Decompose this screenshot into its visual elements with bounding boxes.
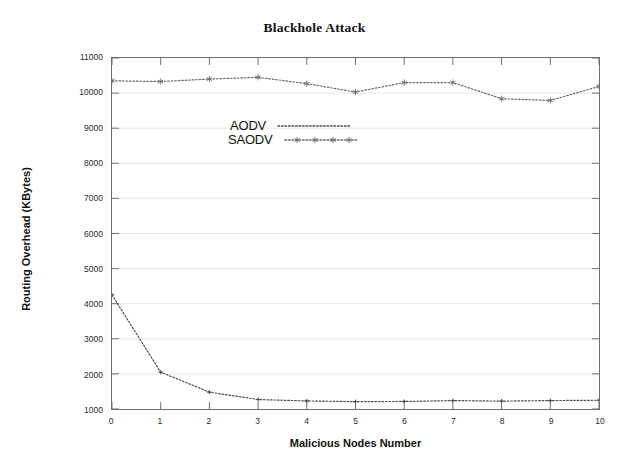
data-point-saodv-8 bbox=[499, 96, 504, 102]
x-tick-5: 5 bbox=[353, 416, 358, 426]
legend-label-saodv: SAODV bbox=[228, 132, 273, 147]
x-tick-0: 0 bbox=[109, 416, 114, 426]
series-line-saodv bbox=[112, 77, 599, 100]
legend-sample-saodv bbox=[283, 135, 359, 145]
x-tick-7: 7 bbox=[451, 416, 456, 426]
legend-label-aodv: AODV bbox=[230, 118, 266, 133]
plot-area: AODV SAODV bbox=[111, 57, 600, 410]
chart-legend: AODV SAODV bbox=[228, 118, 428, 152]
x-tick-8: 8 bbox=[500, 416, 505, 426]
data-series-layer bbox=[112, 58, 599, 409]
x-axis-title: Malicious Nodes Number bbox=[111, 437, 600, 449]
y-axis-title: Routing Overhead (KBytes) bbox=[20, 129, 32, 349]
x-tick-4: 4 bbox=[304, 416, 309, 426]
data-point-saodv-5 bbox=[353, 89, 358, 95]
x-tick-3: 3 bbox=[255, 416, 260, 426]
x-tick-2: 2 bbox=[206, 416, 211, 426]
x-tick-6: 6 bbox=[402, 416, 407, 426]
x-tick-10: 10 bbox=[595, 416, 604, 426]
x-tick-9: 9 bbox=[549, 416, 554, 426]
chart-figure: Blackhole Attack 10002000300040005000600… bbox=[0, 0, 629, 476]
legend-item-saodv: SAODV bbox=[228, 132, 359, 147]
legend-item-aodv: AODV bbox=[230, 118, 352, 133]
series-line-aodv bbox=[112, 295, 599, 402]
legend-sample-aodv bbox=[276, 121, 352, 131]
x-tick-1: 1 bbox=[158, 416, 163, 426]
